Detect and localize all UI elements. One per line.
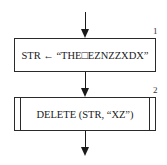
left-inner-bar (20, 98, 21, 130)
step-2-text: DELETE (STR, “XZ”) (36, 109, 133, 120)
step-1-text: STR ← “THE□EZNZZXDX” (21, 50, 148, 61)
right-inner-bar (149, 98, 150, 130)
entry-arrow-head-icon (81, 29, 89, 38)
step-2-number: 2 (153, 85, 158, 95)
entry-arrow-line (85, 12, 87, 30)
step-1-number: 1 (153, 26, 158, 36)
connector-arrow-head-icon (81, 88, 89, 97)
exit-arrow-head-icon (81, 147, 89, 156)
exit-arrow-line (85, 131, 87, 148)
step-1-process-box: STR ← “THE□EZNZZXDX” (14, 38, 156, 72)
step-2-predefined-process-box: DELETE (STR, “XZ”) (14, 97, 156, 131)
connector-arrow-line (85, 72, 87, 89)
